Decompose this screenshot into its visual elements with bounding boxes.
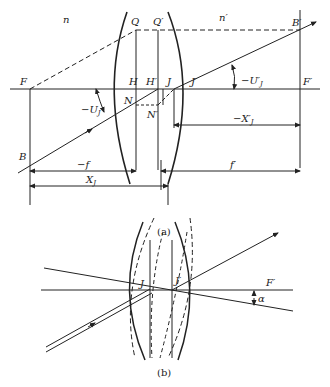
point-Q-prime: Q′ xyxy=(153,16,164,27)
lens-surface-right xyxy=(168,12,183,184)
incident-ray-1 xyxy=(46,289,150,347)
point-J-b: J xyxy=(138,278,145,289)
figure-b xyxy=(41,218,293,360)
point-F: F xyxy=(19,76,28,87)
angle-U-J-prime xyxy=(232,65,235,89)
point-N-prime: N′ xyxy=(146,109,159,120)
label-f-prime: f′ xyxy=(229,159,237,170)
point-J-prime-b: J′ xyxy=(173,275,182,286)
svg-text:−UJ: −UJ xyxy=(81,104,102,117)
svg-text:XJ: XJ xyxy=(85,174,97,187)
svg-text:−U′J: −U′J xyxy=(241,75,264,88)
point-N: N xyxy=(123,95,134,106)
emergent-ray-b xyxy=(172,233,278,290)
point-H: H xyxy=(128,76,138,87)
figure-a xyxy=(10,10,320,205)
label-minus-U-J-prime: −U′J xyxy=(241,75,264,88)
label-minus-U-J: −UJ xyxy=(81,104,102,117)
incident-ray-2 xyxy=(46,293,152,352)
label-X-J: XJ xyxy=(85,174,97,187)
caption-b: (b) xyxy=(157,367,171,378)
point-J: J xyxy=(165,76,172,87)
svg-text:−X′J: −X′J xyxy=(233,113,255,126)
caption-a: (a) xyxy=(157,226,171,237)
medium-n-label: n xyxy=(63,14,69,25)
point-F-prime: F′ xyxy=(302,76,313,87)
point-J-prime: J′ xyxy=(189,76,198,87)
point-B-prime: B′ xyxy=(291,17,302,28)
label-minus-X-J-prime: −X′J xyxy=(233,113,255,126)
ray-N-prime-to-J-prime xyxy=(158,89,174,105)
point-Q: Q xyxy=(131,16,139,27)
angle-alpha: α xyxy=(258,293,265,304)
point-H-prime: H′ xyxy=(145,76,158,87)
point-B: B xyxy=(18,151,26,162)
point-F-prime-b: F′ xyxy=(265,277,276,288)
optics-diagram: n n′ Q Q′ B′ F H H′ J J′ F′ N N′ B −UJ −… xyxy=(0,0,330,387)
label-minus-f: −f xyxy=(77,159,91,170)
medium-n-prime-label: n′ xyxy=(219,12,228,23)
